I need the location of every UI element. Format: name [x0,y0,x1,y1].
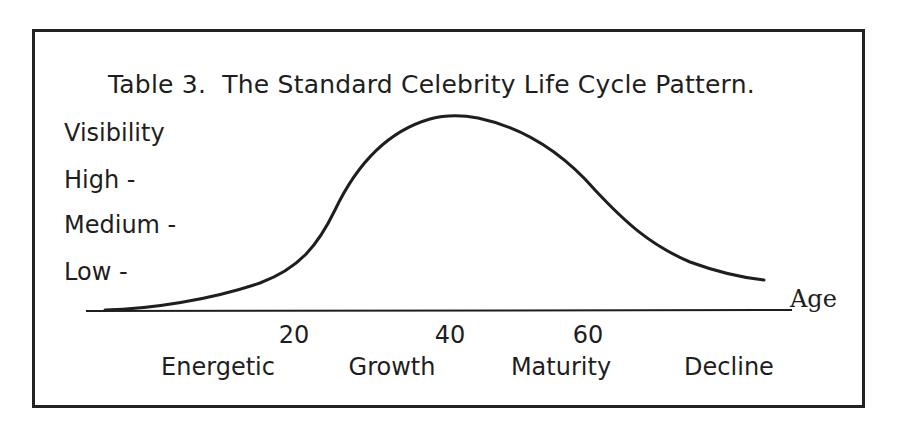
x-axis-line [86,310,792,311]
x-tick-60: 60 [573,320,604,350]
phase-decline: Decline [684,352,774,382]
phase-maturity: Maturity [511,352,611,382]
phase-energetic: Energetic [161,352,275,382]
x-axis-label: Age [790,284,837,314]
visibility-curve [105,116,764,310]
phase-growth: Growth [349,352,436,382]
x-tick-20: 20 [279,320,310,350]
x-tick-40: 40 [435,320,466,350]
